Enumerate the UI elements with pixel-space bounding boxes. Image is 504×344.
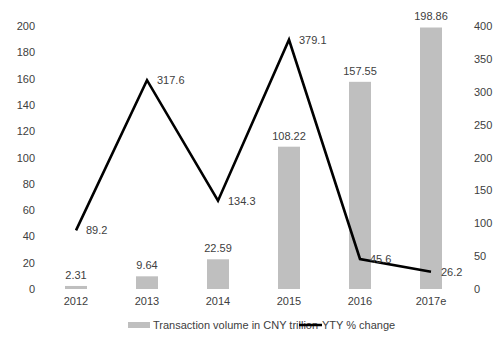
bar-value-label: 198.86 [414,10,448,22]
right-axis-tick-label: 200 [474,152,492,164]
legend-swatch-bar [128,322,150,328]
line-value-label: 317.6 [157,74,185,86]
bar [420,27,442,289]
bar [65,286,87,289]
left-axis-tick-label: 60 [23,204,35,216]
line-value-label: 26.2 [441,266,462,278]
left-y-axis: 020406080100120140160180200 [17,20,35,295]
left-axis-tick-label: 40 [23,230,35,242]
x-axis-tick-label: 2016 [348,295,372,307]
legend-label-line: YTY % change [322,319,395,331]
bar-value-label: 157.55 [343,65,377,77]
left-axis-tick-label: 80 [23,178,35,190]
right-axis-tick-label: 250 [474,119,492,131]
left-axis-tick-label: 120 [17,125,35,137]
right-axis-tick-label: 100 [474,217,492,229]
x-axis-tick-label: 2012 [64,295,88,307]
bar [136,276,158,289]
right-axis-tick-label: 0 [474,283,480,295]
left-axis-tick-label: 0 [29,283,35,295]
left-axis-tick-label: 200 [17,20,35,32]
line-path [76,40,431,272]
bar-value-label: 108.22 [272,130,306,142]
right-axis-tick-label: 300 [474,86,492,98]
x-axis: 201220132014201520162017e [64,295,447,307]
x-axis-tick-label: 2017e [416,295,447,307]
bar-value-label: 9.64 [136,259,157,271]
bar [207,259,229,289]
bar-value-label: 22.59 [204,242,232,254]
bar-value-label: 2.31 [65,269,86,281]
combo-chart: 020406080100120140160180200 050100150200… [0,0,504,344]
right-axis-tick-label: 400 [474,20,492,32]
chart-canvas: 020406080100120140160180200 050100150200… [0,0,504,344]
line-value-label: 45.6 [370,253,391,265]
bar-data-labels: 2.319.6422.59108.22157.55198.86 [65,10,448,280]
legend-label-bar: Transaction volume in CNY trillion [153,319,318,331]
x-axis-tick-label: 2015 [277,295,301,307]
x-axis-tick-label: 2013 [135,295,159,307]
left-axis-tick-label: 160 [17,73,35,85]
bar [278,147,300,289]
left-axis-tick-label: 140 [17,99,35,111]
legend: Transaction volume in CNY trillion YTY %… [128,319,395,331]
right-axis-tick-label: 350 [474,53,492,65]
line-value-label: 89.2 [86,224,107,236]
left-axis-tick-label: 180 [17,46,35,58]
left-axis-tick-label: 20 [23,257,35,269]
x-axis-tick-label: 2014 [206,295,230,307]
right-y-axis: 050100150200250300350400 [474,20,492,295]
line-series [76,40,431,272]
line-value-label: 134.3 [228,195,256,207]
right-axis-tick-label: 150 [474,184,492,196]
line-value-label: 379.1 [299,34,327,46]
bar-series [65,27,442,289]
right-axis-tick-label: 50 [474,250,486,262]
left-axis-tick-label: 100 [17,152,35,164]
